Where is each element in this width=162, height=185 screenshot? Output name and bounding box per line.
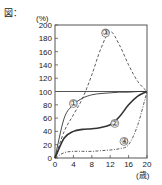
- y-tick-label: 160: [39, 48, 53, 57]
- series-line: [55, 32, 147, 158]
- y-tick-label: 40: [43, 127, 52, 136]
- x-tick-label: 4: [71, 160, 76, 169]
- y-tick-label: 200: [39, 21, 53, 30]
- y-tick-label: 120: [39, 74, 53, 83]
- plot-area: 020406080100120140160180200048121620①②③④: [39, 21, 152, 169]
- x-tick-label: 8: [90, 160, 95, 169]
- series-line: [55, 91, 147, 158]
- series-label: ①: [70, 99, 77, 108]
- growth-curve-chart: 図： (%) (歳) 02040608010012014016018020004…: [0, 0, 162, 185]
- x-tick-label: 20: [143, 160, 152, 169]
- figure-label: 図：: [4, 8, 22, 18]
- x-tick-label: 16: [124, 160, 133, 169]
- series-label: ④: [121, 137, 128, 146]
- x-tick-label: 0: [53, 160, 58, 169]
- y-tick-label: 100: [39, 88, 53, 97]
- y-tick-label: 20: [43, 141, 52, 150]
- y-tick-label: 80: [43, 101, 52, 110]
- series-line: [55, 92, 147, 159]
- series-line: [55, 92, 147, 159]
- y-tick-label: 60: [43, 114, 52, 123]
- x-tick-label: 12: [106, 160, 115, 169]
- x-axis-unit: (歳): [136, 170, 150, 180]
- series-label: ③: [102, 28, 109, 37]
- y-tick-label: 140: [39, 61, 53, 70]
- y-tick-label: 180: [39, 34, 53, 43]
- series-label: ②: [111, 119, 118, 128]
